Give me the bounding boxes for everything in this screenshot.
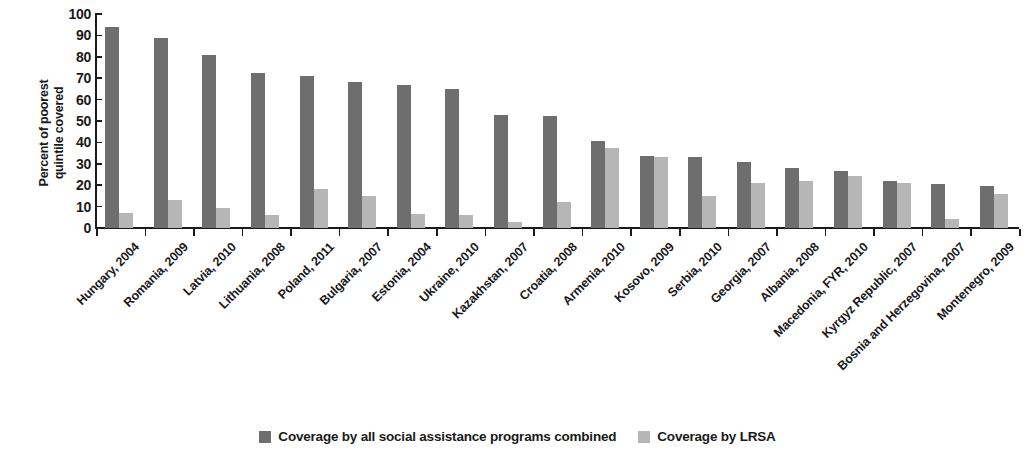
x-axis-label: Lithuania, 2008 (216, 240, 288, 312)
bar-lrsa-coverage (119, 213, 133, 228)
bar-group (931, 14, 959, 228)
bar-total-coverage (348, 82, 362, 228)
x-tick-mark (436, 229, 438, 236)
y-axis-title-line-1: Percent of poorest (37, 33, 52, 233)
bar-total-coverage (154, 38, 168, 228)
bar-lrsa-coverage (216, 208, 230, 228)
bar-total-coverage (640, 156, 654, 228)
bar-chart: Percent of poorest quintile covered 1009… (0, 0, 1035, 458)
x-tick-mark (582, 229, 584, 236)
bar-total-coverage (785, 168, 799, 228)
bar-group (883, 14, 911, 228)
bar-total-coverage (251, 73, 265, 228)
x-tick-mark (873, 229, 875, 236)
x-tick-mark (825, 229, 827, 236)
bar-lrsa-coverage (702, 196, 716, 228)
x-axis-label: Kyrgyz Republic, 2007 (819, 240, 920, 341)
bar-group (543, 14, 571, 228)
bar-total-coverage (543, 116, 557, 228)
bar-group (737, 14, 765, 228)
x-tick-mark (485, 229, 487, 236)
bar-group (980, 14, 1008, 228)
bar-group (105, 14, 133, 228)
y-tick-label: 80 (57, 50, 91, 64)
x-tick-mark (242, 229, 244, 236)
bar-group (591, 14, 619, 228)
legend-swatch-icon (259, 431, 271, 443)
x-tick-mark (290, 229, 292, 236)
x-tick-mark (630, 229, 632, 236)
bar-group (154, 14, 182, 228)
x-axis-label: Croatia, 2008 (516, 240, 579, 303)
bar-group (251, 14, 279, 228)
legend-swatch-icon (638, 431, 650, 443)
x-axis-label: Ukraine, 2010 (417, 240, 482, 305)
legend-item: Coverage by all social assistance progra… (259, 430, 616, 444)
x-axis-label: Montenegro, 2009 (934, 240, 1017, 323)
x-axis-label: Romania, 2009 (121, 240, 191, 310)
x-tick-mark (1019, 229, 1021, 236)
x-axis-label: Bosnia and Herzegovina, 2007 (835, 240, 968, 373)
bar-group (397, 14, 425, 228)
bar-group (640, 14, 668, 228)
x-axis-label: Albania, 2008 (758, 240, 823, 305)
x-axis-label: Poland, 2011 (275, 240, 337, 302)
bar-lrsa-coverage (508, 222, 522, 228)
x-tick-mark (776, 229, 778, 236)
legend-label: Coverage by LRSA (657, 430, 775, 444)
x-axis-label: Estonia, 2004 (369, 240, 434, 305)
y-tick-label: 100 (57, 7, 91, 21)
bar-total-coverage (737, 162, 751, 228)
y-tick-label: 10 (57, 200, 91, 214)
bar-group (785, 14, 813, 228)
x-tick-mark (339, 229, 341, 236)
bar-total-coverage (494, 115, 508, 228)
bar-total-coverage (591, 141, 605, 228)
x-tick-mark (193, 229, 195, 236)
bar-total-coverage (688, 157, 702, 228)
x-tick-mark (145, 229, 147, 236)
x-axis-label: Kazakhstan, 2007 (449, 240, 530, 321)
bar-total-coverage (931, 184, 945, 228)
bar-lrsa-coverage (897, 183, 911, 228)
y-tick-label: 40 (57, 135, 91, 149)
bar-group (202, 14, 230, 228)
bar-group (348, 14, 376, 228)
bar-total-coverage (202, 55, 216, 228)
bar-group (300, 14, 328, 228)
x-tick-mark (96, 229, 98, 236)
bar-total-coverage (105, 27, 119, 228)
bar-group (834, 14, 862, 228)
x-axis-label: Armenia, 2010 (560, 240, 628, 308)
bar-total-coverage (445, 89, 459, 228)
bar-total-coverage (834, 171, 848, 228)
bar-lrsa-coverage (945, 219, 959, 228)
bar-lrsa-coverage (848, 176, 862, 228)
legend-item: Coverage by LRSA (638, 430, 775, 444)
bar-lrsa-coverage (362, 196, 376, 228)
bar-total-coverage (300, 76, 314, 228)
bar-lrsa-coverage (557, 202, 571, 228)
bar-lrsa-coverage (411, 214, 425, 228)
bar-lrsa-coverage (654, 157, 668, 228)
x-axis-label: Hungary, 2004 (74, 240, 142, 308)
bar-lrsa-coverage (751, 183, 765, 228)
x-tick-mark (679, 229, 681, 236)
x-axis-label: Kosovo, 2009 (611, 240, 676, 305)
x-tick-mark (922, 229, 924, 236)
plot-area (96, 14, 1019, 228)
x-axis-label: Bulgaria, 2007 (317, 240, 385, 308)
bar-total-coverage (980, 186, 994, 228)
bar-lrsa-coverage (994, 194, 1008, 228)
chart-legend: Coverage by all social assistance progra… (0, 430, 1035, 444)
bar-total-coverage (883, 181, 897, 228)
bar-lrsa-coverage (799, 181, 813, 228)
x-axis-label: Latvia, 2010 (181, 240, 239, 298)
x-axis-label: Serbia, 2010 (665, 240, 725, 300)
bar-lrsa-coverage (314, 189, 328, 228)
bar-group (445, 14, 473, 228)
y-tick-label: 60 (57, 93, 91, 107)
x-axis-label: Macedonia, FYR, 2010 (771, 240, 871, 340)
x-tick-mark (533, 229, 535, 236)
y-tick-label: 90 (57, 28, 91, 42)
